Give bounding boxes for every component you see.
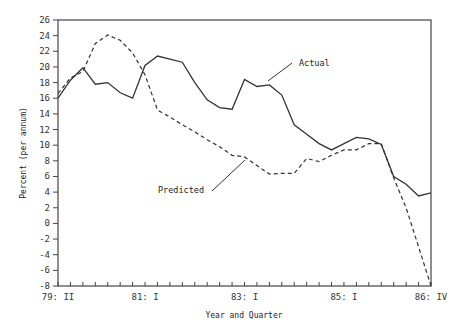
y-tick-label: 16 xyxy=(39,93,50,103)
y-tick-label: -6 xyxy=(39,265,50,275)
y-axis: -8-6-4-202468101214161820222426 xyxy=(39,15,58,291)
y-tick-label: 20 xyxy=(39,62,50,72)
predicted-annotation-leader xyxy=(212,160,245,191)
y-axis-title: Percent (per annum) xyxy=(19,107,28,199)
y-tick-label: 8 xyxy=(45,156,50,166)
predicted-annotation: Predicted xyxy=(158,185,204,195)
y-tick-label: 10 xyxy=(39,140,50,150)
y-tick-label: 0 xyxy=(45,218,50,228)
y-tick-label: -8 xyxy=(39,281,50,291)
y-tick-label: -4 xyxy=(39,250,50,260)
line-chart: -8-6-4-202468101214161820222426 79: II81… xyxy=(0,0,469,334)
x-tick-label: 81: I xyxy=(131,292,158,302)
x-tick-label: 85: I xyxy=(330,292,357,302)
y-tick-label: 22 xyxy=(39,46,50,56)
x-tick-label: 83: I xyxy=(231,292,258,302)
x-tick-label: 86: IV xyxy=(415,292,448,302)
y-tick-label: 24 xyxy=(39,31,50,41)
y-tick-label: -2 xyxy=(39,234,50,244)
y-tick-label: 12 xyxy=(39,125,50,135)
y-tick-label: 4 xyxy=(45,187,50,197)
plot-frame xyxy=(58,20,431,286)
y-tick-label: 14 xyxy=(39,109,50,119)
x-axis: 79: II81: I83: I85: I86: IV xyxy=(42,282,448,302)
actual-annotation: Actual xyxy=(299,58,330,68)
actual-annotation-leader xyxy=(268,63,292,81)
y-tick-label: 18 xyxy=(39,78,50,88)
actual-series-line xyxy=(58,56,431,196)
y-tick-label: 26 xyxy=(39,15,50,25)
y-tick-label: 2 xyxy=(45,203,50,213)
x-tick-label: 79: II xyxy=(42,292,75,302)
y-tick-label: 6 xyxy=(45,171,50,181)
x-axis-title: Year and Quarter xyxy=(205,311,282,320)
